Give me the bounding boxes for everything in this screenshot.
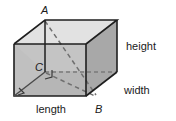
label-width: width (124, 85, 150, 96)
prism-figure: height width length A B C (0, 0, 176, 121)
label-vertex-c: C (35, 62, 43, 73)
label-length: length (36, 104, 66, 115)
label-vertex-a: A (41, 5, 48, 16)
prism-svg (0, 0, 176, 121)
label-vertex-b: B (95, 104, 102, 115)
label-height: height (126, 41, 156, 52)
